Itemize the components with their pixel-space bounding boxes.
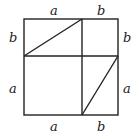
label-right-bottom: a	[123, 81, 131, 96]
label-bottom-left: a	[50, 119, 58, 134]
top-left-diagonal	[24, 19, 82, 56]
label-bottom-right: b	[97, 119, 105, 134]
label-left-top: b	[9, 30, 17, 45]
outer-square	[24, 19, 118, 115]
square-diagram: a b b a b a a b	[0, 0, 140, 139]
label-top-right: b	[97, 3, 105, 18]
label-top-left: a	[50, 3, 58, 18]
bottom-right-diagonal	[82, 56, 118, 115]
label-left-bottom: a	[9, 81, 17, 96]
label-right-top: b	[123, 30, 131, 45]
